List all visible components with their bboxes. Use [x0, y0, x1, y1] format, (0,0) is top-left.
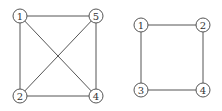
graph-diagram: 1 5 2 4 1 2 3 — [0, 0, 222, 111]
svg-text:5: 5 — [93, 11, 99, 22]
node-1: 1 — [134, 18, 148, 32]
node-2: 2 — [196, 18, 210, 32]
node-4: 4 — [89, 89, 103, 103]
svg-text:3: 3 — [138, 85, 144, 96]
right-graph: 1 2 3 4 — [134, 18, 210, 97]
node-3: 3 — [134, 83, 148, 97]
svg-text:1: 1 — [138, 20, 144, 31]
svg-text:1: 1 — [17, 11, 23, 22]
svg-text:2: 2 — [17, 91, 23, 102]
node-2: 2 — [13, 89, 27, 103]
svg-text:4: 4 — [200, 85, 206, 96]
node-1: 1 — [13, 9, 27, 23]
svg-text:2: 2 — [200, 20, 206, 31]
node-5: 5 — [89, 9, 103, 23]
svg-text:4: 4 — [93, 91, 99, 102]
left-graph: 1 5 2 4 — [13, 9, 103, 103]
node-4: 4 — [196, 83, 210, 97]
